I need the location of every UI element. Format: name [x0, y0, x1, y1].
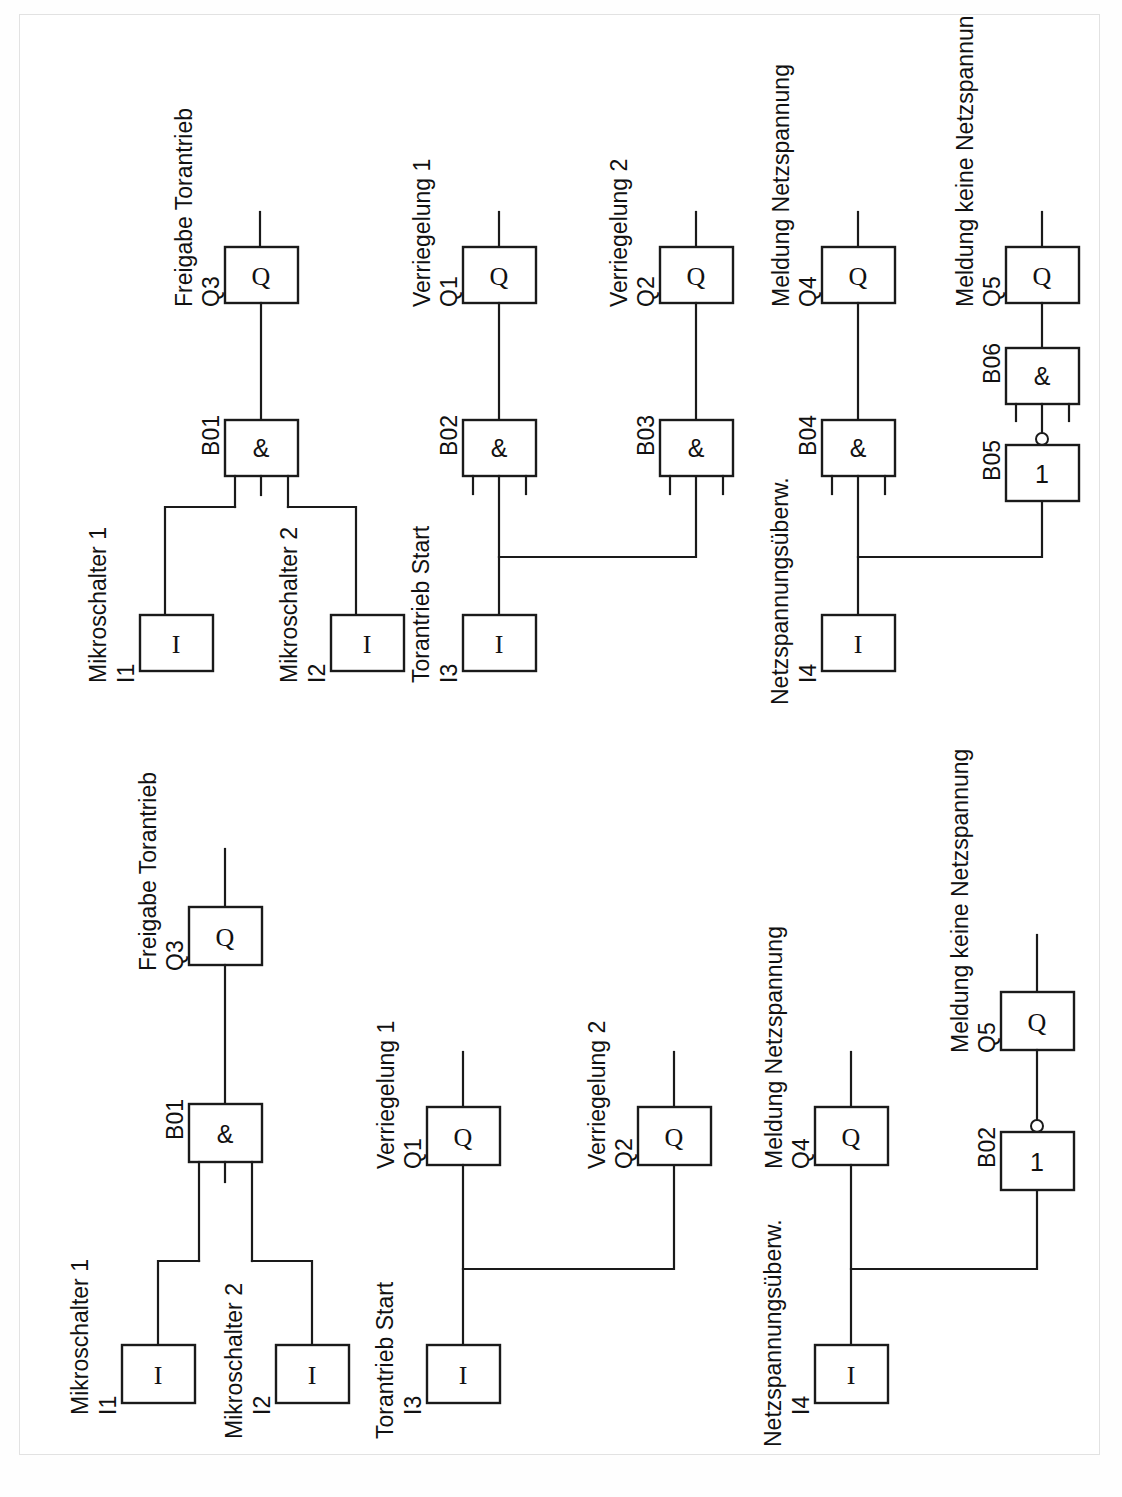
block2-i3-symbol: I: [459, 1361, 468, 1390]
wire-b01-i1: [165, 507, 235, 615]
block-q2-symbol: Q: [687, 262, 706, 291]
paper-sheet: Q & I I Q: [19, 14, 1100, 1455]
label-i1-tag: I1: [113, 664, 139, 683]
label2-i4-name: Netzspannungsüberw.: [760, 1219, 786, 1447]
diagram-lower: Q & I I Q Q: [67, 749, 1074, 1447]
wire-b05-i4-bus: [858, 501, 1042, 557]
label-i4-name: Netzspannungsüberw.: [767, 477, 793, 705]
wire-b03-i3-bus: [499, 476, 696, 557]
label-q3-name: Freigabe Torantrieb: [171, 108, 197, 307]
label2-i4-tag: I4: [788, 1396, 814, 1415]
block-i3-symbol: I: [495, 630, 504, 659]
label-q3-tag: Q3: [198, 276, 224, 307]
label2-q2-tag: Q2: [611, 1138, 637, 1169]
label2-i2-tag: I2: [249, 1396, 275, 1415]
label-b01: B01: [198, 415, 224, 456]
block2-i2-symbol: I: [308, 1361, 317, 1390]
wire2-b01-i2: [252, 1261, 312, 1345]
page-canvas: Q & I I Q: [0, 0, 1122, 1497]
lower-chain-meldung-netzspannung: Q I: [815, 1052, 888, 1403]
label2-i2-name: Mikroschalter 2: [221, 1283, 247, 1439]
block2-q5-symbol: Q: [1028, 1008, 1047, 1037]
label2-q3-tag: Q3: [162, 940, 188, 971]
label2-b02: B02: [974, 1127, 1000, 1168]
label2-q4-tag: Q4: [788, 1138, 814, 1169]
label2-q5-name: Meldung keine Netzspannung: [947, 749, 973, 1053]
block-b03-symbol: &: [688, 434, 705, 462]
block-q5-symbol: Q: [1033, 262, 1052, 291]
label2-b01: B01: [162, 1099, 188, 1140]
label-q5-tag: Q5: [979, 276, 1005, 307]
label2-q1-name: Verriegelung 1: [373, 1021, 399, 1169]
block-i1-symbol: I: [172, 630, 181, 659]
label-b02: B02: [436, 415, 462, 456]
label2-q1-tag: Q1: [400, 1138, 426, 1169]
block2-q3-symbol: Q: [216, 923, 235, 952]
label-q4-tag: Q4: [795, 276, 821, 307]
block-i2-symbol: I: [363, 630, 372, 659]
wire2-b02-i4-bus: [851, 1190, 1037, 1269]
block-b04-symbol: &: [850, 434, 867, 462]
block2-q1-symbol: Q: [454, 1123, 473, 1152]
label-i3-name: Torantrieb Start: [408, 525, 434, 683]
label-b03: B03: [633, 415, 659, 456]
label-b04: B04: [795, 415, 821, 456]
label2-i3-name: Torantrieb Start: [372, 1281, 398, 1439]
block-q3-symbol: Q: [252, 262, 271, 291]
lower-chain-verriegelung: Q Q I: [427, 1052, 711, 1403]
label-i4-tag: I4: [795, 664, 821, 683]
block-b02-symbol: &: [491, 434, 508, 462]
label2-q5-tag: Q5: [974, 1022, 1000, 1053]
diagram-svg: Q & I I Q: [20, 15, 1099, 1454]
block-i4-symbol: I: [854, 630, 863, 659]
block2-q4-symbol: Q: [842, 1123, 861, 1152]
block-b05-symbol: 1: [1035, 460, 1049, 488]
label-b05: B05: [979, 440, 1005, 481]
label-i1-name: Mikroschalter 1: [85, 527, 111, 683]
label-q1-name: Verriegelung 1: [409, 159, 435, 307]
label-i2-tag: I2: [304, 664, 330, 683]
label-q2-tag: Q2: [633, 276, 659, 307]
block-b06-symbol: &: [1034, 362, 1051, 390]
block-b01-symbol: &: [253, 434, 270, 462]
block2-b02-symbol: 1: [1030, 1148, 1044, 1176]
label2-q3-name: Freigabe Torantrieb: [135, 772, 161, 971]
label-b06: B06: [979, 343, 1005, 384]
label2-q2-name: Verriegelung 2: [584, 1021, 610, 1169]
diagram-upper: Q & I I Q: [85, 15, 1079, 705]
block2-i1-symbol: I: [154, 1361, 163, 1390]
block2-b01-symbol: &: [217, 1120, 234, 1148]
block2-i4-symbol: I: [847, 1361, 856, 1390]
label2-i1-tag: I1: [95, 1396, 121, 1415]
label-i3-tag: I3: [436, 664, 462, 683]
label-i2-name: Mikroschalter 2: [276, 527, 302, 683]
label-q2-name: Verriegelung 2: [606, 159, 632, 307]
inverter-bubble-b02: [1031, 1120, 1043, 1132]
block-q4-symbol: Q: [849, 262, 868, 291]
label-q5-name: Meldung keine Netzspannung: [952, 15, 978, 307]
label2-q4-name: Meldung Netzspannung: [761, 926, 787, 1169]
wire2-q2-i3-bus: [463, 1165, 674, 1269]
label2-i3-tag: I3: [400, 1396, 426, 1415]
label-q4-name: Meldung Netzspannung: [768, 64, 794, 307]
upper-chain-meldung-netzspannung: Q & I: [822, 212, 895, 671]
block2-q2-symbol: Q: [665, 1123, 684, 1152]
block-q1-symbol: Q: [490, 262, 509, 291]
upper-chain-verriegelung1: Q & I: [463, 212, 536, 671]
label-q1-tag: Q1: [436, 276, 462, 307]
wire2-b01-i1: [158, 1261, 199, 1345]
label2-i1-name: Mikroschalter 1: [67, 1259, 93, 1415]
inverter-bubble-b05: [1036, 433, 1048, 445]
upper-labels: Freigabe Torantrieb Q3 B01 Verriegelung …: [85, 15, 1005, 705]
lower-labels: Freigabe Torantrieb Q3 B01 Verriegelung …: [67, 749, 1000, 1447]
